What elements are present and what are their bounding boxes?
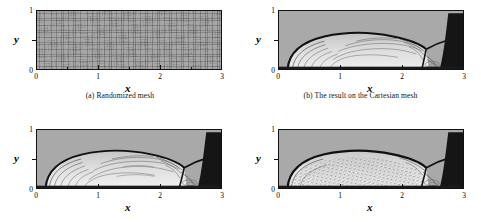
xtick-label: 3 bbox=[462, 191, 466, 200]
ytick-label: 1 bbox=[266, 6, 275, 15]
panel-c-result-randomized: 0 1 2 3 0 1 y x bbox=[0, 111, 240, 218]
xtick-label: 0 bbox=[34, 72, 38, 81]
plot-area-a: 0 1 2 3 0 1 y x bbox=[36, 10, 222, 70]
ytick-label: 0 bbox=[24, 185, 33, 194]
xtick-label: 1 bbox=[338, 72, 342, 81]
plot-area-c: 0 1 2 3 0 1 y x bbox=[36, 129, 222, 189]
contour-field-d bbox=[279, 130, 463, 188]
ytick-label: 1 bbox=[24, 6, 33, 15]
y-axis-label: y bbox=[256, 33, 261, 45]
xtick-label: 3 bbox=[220, 72, 224, 81]
panel-caption-a: (a) Randomized mesh bbox=[0, 91, 240, 100]
randomized-mesh-fill bbox=[37, 11, 221, 69]
contour-field-c bbox=[37, 130, 221, 188]
xtick-label: 0 bbox=[276, 72, 280, 81]
ytick-label: 1 bbox=[266, 125, 275, 134]
x-axis-label: x bbox=[367, 201, 373, 213]
contour-svg-c bbox=[37, 130, 221, 188]
contour-field-b bbox=[279, 11, 463, 69]
xtick-label: 3 bbox=[220, 191, 224, 200]
ytick-label: 0 bbox=[24, 66, 33, 75]
panel-b-cartesian: 0 1 2 3 0 1 y x (b) The result on the Ca… bbox=[240, 0, 481, 111]
ytick-label: 1 bbox=[24, 125, 33, 134]
xtick-label: 2 bbox=[400, 191, 404, 200]
contour-svg-b bbox=[279, 11, 463, 69]
xtick-label: 1 bbox=[338, 191, 342, 200]
xtick-label: 0 bbox=[34, 191, 38, 200]
xtick-label: 1 bbox=[96, 191, 100, 200]
plot-area-b: 0 1 2 3 0 1 y x bbox=[278, 10, 464, 70]
y-axis-label: y bbox=[256, 152, 261, 164]
xtick-label: 2 bbox=[158, 72, 162, 81]
ytick-label: 0 bbox=[266, 66, 275, 75]
plot-frame-a bbox=[36, 10, 222, 70]
xtick-label: 2 bbox=[400, 72, 404, 81]
xtick-label: 2 bbox=[158, 191, 162, 200]
panel-d-result-noisy: 0 1 2 3 0 1 y x bbox=[240, 111, 481, 218]
panel-a-mesh: 0 1 2 3 0 1 y x (a) Randomized mesh bbox=[0, 0, 240, 111]
plot-frame-b bbox=[278, 10, 464, 70]
xtick-label: 3 bbox=[462, 72, 466, 81]
plot-area-d: 0 1 2 3 0 1 y x bbox=[278, 129, 464, 189]
plot-frame-d bbox=[278, 129, 464, 189]
xtick-label: 0 bbox=[276, 191, 280, 200]
panel-caption-b: (b) The result on the Cartesian mesh bbox=[240, 91, 481, 100]
y-axis-label: y bbox=[14, 33, 19, 45]
contour-svg-d bbox=[279, 130, 463, 188]
ytick-label: 0 bbox=[266, 185, 275, 194]
figure-grid: 0 1 2 3 0 1 y x (a) Randomized mesh bbox=[0, 0, 481, 222]
y-axis-label: y bbox=[14, 152, 19, 164]
xtick-label: 1 bbox=[96, 72, 100, 81]
x-axis-label: x bbox=[125, 201, 131, 213]
plot-frame-c bbox=[36, 129, 222, 189]
